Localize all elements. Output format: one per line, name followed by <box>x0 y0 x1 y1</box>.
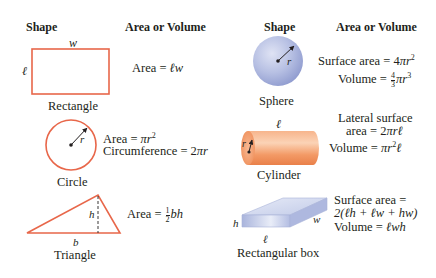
triangle-base-label: b <box>73 236 79 248</box>
rectangle-area-formula: Area = ℓw <box>132 61 183 76</box>
box-caption: Rectangular box <box>237 246 319 261</box>
sphere-caption: Sphere <box>259 94 294 109</box>
circle-radius-label: r <box>80 133 84 145</box>
rectangle-length-label: ℓ <box>22 64 27 79</box>
cylinder-volume-formula: Volume = πr2ℓ <box>329 137 401 156</box>
triangle-area-formula: Area = 12bh <box>127 207 183 224</box>
cylinder-shape <box>241 131 319 165</box>
right-header-shape: Shape <box>264 20 295 35</box>
sphere-volume-formula: Volume = 43πr3 <box>338 68 411 89</box>
rectangle-caption: Rectangle <box>48 99 98 114</box>
box-volume-formula: Volume = ℓwh <box>334 220 406 235</box>
sphere-shape <box>253 36 303 86</box>
triangle-height-label: h <box>89 208 95 220</box>
right-header-area-or-volume: Area or Volume <box>336 20 417 35</box>
triangle-caption: Triangle <box>54 248 96 263</box>
cylinder-length-label: ℓ <box>276 117 281 132</box>
rectangle-shape <box>32 49 109 94</box>
sphere-surface-area-formula: Surface area = 4πr2 <box>318 50 415 69</box>
sphere-radius-label: r <box>287 55 291 67</box>
cylinder-caption: Cylinder <box>257 168 301 183</box>
left-header-area-or-volume: Area or Volume <box>125 20 206 35</box>
cylinder-radius-label: r <box>242 138 246 149</box>
triangle-shape <box>27 195 120 233</box>
rectangle-width-label: w <box>69 36 77 51</box>
circle-circumference-formula: Circumference = 2πr <box>103 144 208 159</box>
box-surface-area-line2: 2(ℓh + ℓw + hw) <box>334 206 418 221</box>
circle-shape <box>46 120 96 170</box>
box-length-label: ℓ <box>263 233 268 245</box>
box-height-label: h <box>233 217 239 229</box>
left-header-shape: Shape <box>26 20 57 35</box>
circle-caption: Circle <box>57 175 88 190</box>
box-width-label: w <box>313 213 320 225</box>
